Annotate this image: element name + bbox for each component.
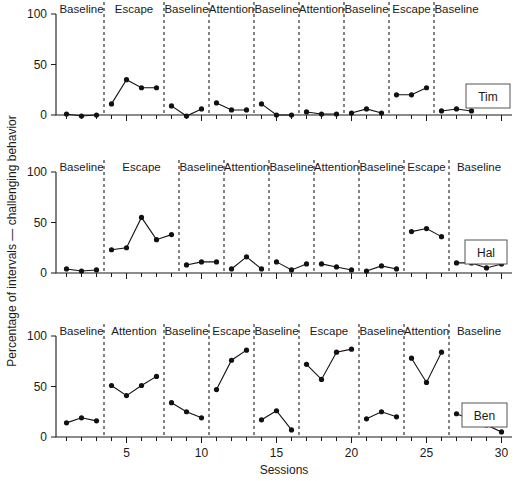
x-tick-label: 25 <box>420 446 434 460</box>
phase-label-baseline: Baseline <box>457 161 501 173</box>
y-tick-label: 100 <box>27 165 47 179</box>
data-point <box>79 415 84 420</box>
data-point <box>124 77 129 82</box>
data-point <box>424 85 429 90</box>
phase-label-baseline: Baseline <box>359 325 403 337</box>
data-point <box>109 101 114 106</box>
phase-label-baseline: Baseline <box>179 161 223 173</box>
phase-label-escape: Escape <box>212 325 250 337</box>
phase-label-escape: Escape <box>115 3 153 15</box>
data-point <box>139 215 144 220</box>
data-point <box>274 112 279 117</box>
data-point <box>289 427 294 432</box>
phase-label-baseline: Baseline <box>254 325 298 337</box>
data-point <box>334 264 339 269</box>
data-point <box>394 266 399 271</box>
x-tick-label: 20 <box>345 446 359 460</box>
data-point <box>469 108 474 113</box>
phase-label-attention: Attention <box>209 3 254 15</box>
phase-label-baseline: Baseline <box>59 325 103 337</box>
y-tick-label: 50 <box>34 58 48 72</box>
panel-axes <box>56 14 512 115</box>
phase-label-escape: Escape <box>407 161 445 173</box>
data-point <box>94 267 99 272</box>
data-point <box>349 267 354 272</box>
data-point <box>274 408 279 413</box>
data-point <box>484 265 489 270</box>
x-axis-title: Sessions <box>260 463 309 477</box>
data-point <box>154 85 159 90</box>
data-point <box>349 347 354 352</box>
data-point <box>109 383 114 388</box>
data-point <box>304 362 309 367</box>
data-point <box>364 268 369 273</box>
data-point <box>244 348 249 353</box>
panel-ben: 05010051015202530BaselineAttentionBaseli… <box>27 324 512 460</box>
data-point <box>244 254 249 259</box>
data-point <box>379 263 384 268</box>
data-point <box>124 245 129 250</box>
data-point <box>199 106 204 111</box>
phase-label-baseline: Baseline <box>164 325 208 337</box>
data-point <box>229 107 234 112</box>
data-point <box>259 266 264 271</box>
data-point <box>289 267 294 272</box>
data-point <box>424 380 429 385</box>
data-point <box>424 226 429 231</box>
y-tick-label: 50 <box>34 216 48 230</box>
phase-label-attention: Attention <box>111 325 156 337</box>
data-point <box>379 409 384 414</box>
data-point <box>304 109 309 114</box>
series-line <box>112 217 172 249</box>
data-point <box>169 400 174 405</box>
y-tick-label: 50 <box>34 380 48 394</box>
data-point <box>289 112 294 117</box>
data-point <box>319 261 324 266</box>
data-point <box>364 106 369 111</box>
data-point <box>259 101 264 106</box>
series-line <box>307 349 352 379</box>
y-tick-label: 0 <box>40 430 47 444</box>
phase-label-attention: Attention <box>224 161 269 173</box>
panel-hal: 050100BaselineEscapeBaselineAttentionBas… <box>27 160 512 280</box>
data-point <box>454 260 459 265</box>
series-line <box>217 350 247 389</box>
data-point <box>94 418 99 423</box>
data-point <box>439 350 444 355</box>
phase-label-baseline: Baseline <box>59 3 103 15</box>
x-tick-label: 30 <box>495 446 509 460</box>
data-point <box>79 268 84 273</box>
data-point <box>319 377 324 382</box>
data-point <box>274 259 279 264</box>
phase-label-escape: Escape <box>392 3 430 15</box>
data-point <box>439 234 444 239</box>
multiple-baseline-chart: 050100BaselineEscapeBaselineAttentionBas… <box>0 0 521 481</box>
series-line <box>112 80 157 104</box>
data-point <box>184 262 189 267</box>
data-point <box>334 350 339 355</box>
data-point <box>349 110 354 115</box>
data-point <box>454 411 459 416</box>
data-point <box>64 420 69 425</box>
phase-label-attention: Attention <box>404 325 449 337</box>
data-point <box>379 110 384 115</box>
data-point <box>409 229 414 234</box>
data-point <box>364 416 369 421</box>
phase-label-baseline: Baseline <box>457 325 501 337</box>
data-point <box>409 356 414 361</box>
y-tick-label: 100 <box>27 7 47 21</box>
data-point <box>454 106 459 111</box>
data-point <box>214 387 219 392</box>
panel-axes <box>56 172 512 273</box>
data-point <box>214 259 219 264</box>
phase-label-escape: Escape <box>310 325 348 337</box>
data-point <box>214 100 219 105</box>
data-point <box>169 232 174 237</box>
data-point <box>244 107 249 112</box>
phase-label-baseline: Baseline <box>434 3 478 15</box>
phase-label-baseline: Baseline <box>344 3 388 15</box>
data-point <box>124 393 129 398</box>
series-line <box>112 376 157 395</box>
series-line <box>262 411 292 430</box>
data-point <box>139 85 144 90</box>
